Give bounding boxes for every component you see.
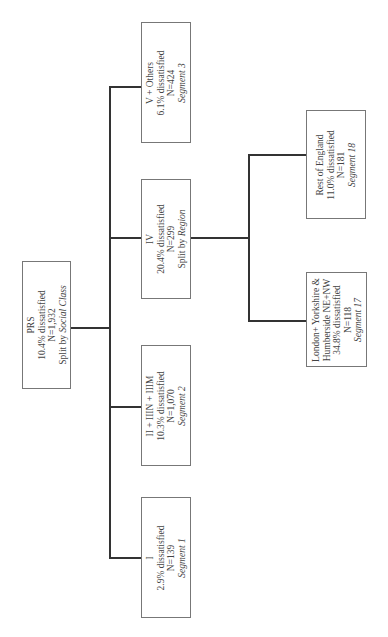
node-n: N=118: [342, 278, 353, 362]
region-trunk: [248, 154, 250, 321]
node-dissatisfied: 10.4% dissatisfied: [36, 285, 47, 364]
node-n: N=181: [336, 130, 347, 199]
node-i: I 2.9% dissatisfied N=139 Segment 1: [141, 497, 191, 618]
branch-ii: [109, 406, 141, 408]
node-title: Rest of England: [315, 130, 326, 199]
branch-iv: [109, 237, 141, 239]
node-dissatisfied: 6.1% dissatisfied: [156, 50, 167, 115]
node-title: I: [145, 525, 156, 590]
node-prs: PRS 10.4% dissatisfied N=1,932 Split by …: [22, 261, 71, 389]
social-class-trunk: [109, 86, 111, 558]
node-title-line1: London+ Yorkshire &: [310, 278, 321, 362]
node-dissatisfied: 2.9% dissatisfied: [156, 525, 167, 590]
branch-v-others: [109, 86, 141, 88]
node-v-others: V + Others 6.1% dissatisfied N=424 Segme…: [141, 22, 191, 143]
node-title: PRS: [26, 285, 37, 364]
node-dissatisfied: 34.8% dissatisfied: [331, 278, 342, 362]
node-segment: Segment 18: [347, 130, 358, 199]
node-iv: IV 20.4% dissatisfied N=299 Split by Reg…: [141, 179, 191, 299]
node-split: Split by Region: [177, 204, 188, 274]
node-rest-of-england: Rest of England 11.0% dissatisfied N=181…: [306, 110, 366, 219]
node-n: N=139: [166, 525, 177, 590]
node-n: N=1,932: [47, 285, 58, 364]
node-london-yorkshire: London+ Yorkshire & Humberside NE+NW 34.…: [306, 272, 367, 367]
node-dissatisfied: 20.4% dissatisfied: [156, 204, 167, 274]
branch-london: [248, 320, 306, 322]
branch-rest-of-england: [248, 154, 306, 156]
root-connector: [70, 327, 110, 329]
node-n: N=1,070: [166, 371, 177, 441]
iv-connector: [190, 237, 249, 239]
node-dissatisfied: 11.0% dissatisfied: [326, 130, 337, 199]
node-dissatisfied: 10.3% dissatisfied: [156, 371, 167, 441]
node-title: II + IIIN + IIIM: [145, 371, 156, 441]
node-ii-iiin-iiim: II + IIIN + IIIM 10.3% dissatisfied N=1,…: [141, 345, 191, 466]
node-title: V + Others: [145, 50, 156, 115]
node-segment: Segment 2: [177, 371, 188, 441]
node-segment: Segment 1: [177, 525, 188, 590]
node-segment: Segment 17: [352, 278, 363, 362]
node-title-line2: Humberside NE+NW: [321, 278, 332, 362]
node-n: N=299: [166, 204, 177, 274]
node-segment: Segment 3: [177, 50, 188, 115]
node-title: IV: [145, 204, 156, 274]
branch-i: [109, 557, 141, 559]
node-split: Split by Social Class: [57, 285, 68, 364]
node-n: N=424: [166, 50, 177, 115]
